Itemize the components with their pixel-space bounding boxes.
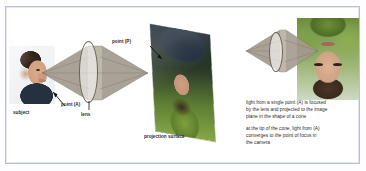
inverted-photo-eye-left bbox=[333, 63, 342, 66]
subject-label: subject bbox=[13, 110, 29, 115]
caption-p1-l2: by the lens and projected to the image bbox=[246, 106, 358, 113]
caption-p2-l2: converges to the point of focus in bbox=[246, 132, 358, 139]
point-p-pointer-icon bbox=[148, 44, 168, 64]
photo-highlight bbox=[150, 24, 215, 142]
caption-block: light from a single point (A) is focused… bbox=[246, 99, 358, 147]
lens-label: lens bbox=[81, 112, 90, 117]
point-p-label: point (P) bbox=[112, 39, 131, 44]
point-a-label: point (A) bbox=[61, 102, 80, 107]
lens-leader-icon bbox=[85, 101, 95, 112]
inverted-photo-mouth bbox=[321, 42, 335, 46]
caption-p2-l3: the camera bbox=[246, 139, 358, 146]
caption-p1-l3: plane in the shape of a cone bbox=[246, 113, 358, 120]
lens-ellipse-icon bbox=[79, 41, 98, 103]
caption-p2-l1: at the tip of the cone, light from (A) bbox=[246, 125, 358, 132]
caption-p1-l1: light from a single point (A) is focused bbox=[246, 99, 358, 106]
figure-root: point (A) subject lens point (P) project… bbox=[0, 0, 366, 171]
subject-eye bbox=[36, 69, 40, 71]
lens-ellipse-icon bbox=[269, 32, 283, 72]
projection-surface-label: projection surface bbox=[144, 134, 185, 139]
projection-surface-photo bbox=[150, 24, 215, 142]
